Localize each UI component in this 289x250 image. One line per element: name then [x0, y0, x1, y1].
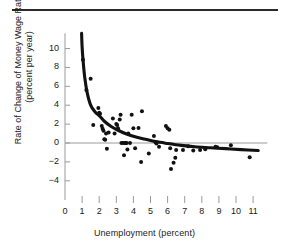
data-point	[113, 132, 117, 136]
data-point	[229, 143, 233, 147]
data-point	[111, 116, 115, 120]
data-point	[105, 147, 109, 151]
data-point	[116, 126, 120, 130]
x-axis-title: Unemployment (percent)	[0, 228, 289, 238]
data-point	[126, 132, 130, 136]
data-point	[133, 146, 137, 150]
data-point	[154, 141, 158, 145]
data-point	[167, 128, 171, 132]
data-point	[172, 161, 176, 165]
y-axis-tick-label: −4	[31, 175, 59, 185]
data-point	[128, 141, 132, 145]
data-point	[119, 113, 123, 117]
data-point	[137, 126, 141, 130]
y-axis-tick-label: 0	[31, 137, 59, 147]
data-point	[248, 155, 252, 159]
data-point	[98, 112, 102, 116]
y-axis-tick-label: −2	[31, 156, 59, 166]
data-point	[173, 156, 177, 160]
data-point	[198, 148, 202, 152]
data-point	[140, 109, 144, 113]
data-point	[168, 146, 172, 150]
data-point	[118, 117, 122, 121]
data-point	[191, 149, 195, 153]
data-point	[169, 167, 173, 171]
data-point	[203, 147, 207, 151]
y-axis-tick-label: 6	[31, 80, 59, 90]
data-point	[91, 123, 95, 127]
y-axis-title-line1: Rate of Change of Money Wage Rates	[13, 0, 24, 147]
data-point	[130, 113, 134, 117]
data-point	[96, 106, 100, 110]
data-point	[122, 153, 126, 157]
data-point	[157, 145, 161, 149]
data-point	[89, 77, 93, 81]
data-point	[181, 148, 185, 152]
data-point	[215, 145, 219, 149]
data-point	[81, 58, 85, 62]
data-point	[107, 131, 111, 135]
data-point	[174, 148, 178, 152]
y-axis-tick-label: 4	[31, 99, 59, 109]
phillips-curve-figure: Rate of Change of Money Wage Rates (perc…	[0, 0, 289, 250]
data-point	[186, 144, 190, 148]
x-axis-tick-label: 11	[239, 206, 267, 216]
data-point	[103, 138, 107, 142]
data-point	[147, 151, 151, 155]
y-axis-tick-label: 8	[31, 61, 59, 71]
data-point	[139, 160, 143, 164]
y-axis-tick-label: 10	[31, 43, 59, 53]
data-point	[125, 141, 129, 145]
y-axis-tick-label: 2	[31, 118, 59, 128]
data-point	[84, 88, 88, 92]
data-point	[125, 148, 129, 152]
data-point	[152, 134, 156, 138]
data-point	[131, 126, 135, 130]
